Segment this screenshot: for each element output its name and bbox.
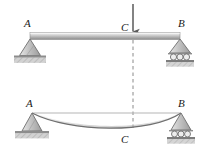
roller-support-b-upper: [166, 39, 194, 67]
lower-diagram-group: A C B: [15, 97, 195, 145]
label-b-lower: B: [178, 97, 185, 109]
label-c-lower: C: [121, 133, 129, 145]
label-b-upper: B: [178, 17, 185, 29]
upper-diagram-group: A C B: [14, 4, 194, 128]
label-c-upper: C: [121, 21, 129, 33]
beam-deflection-figure: A C B: [0, 0, 199, 161]
label-a-upper: A: [23, 17, 31, 29]
deflection-curve: [32, 112, 181, 128]
pin-support-a-upper: [14, 39, 46, 63]
beam-member: [30, 33, 180, 40]
diagram-canvas: A C B: [0, 0, 199, 161]
label-a-lower: A: [25, 97, 33, 109]
